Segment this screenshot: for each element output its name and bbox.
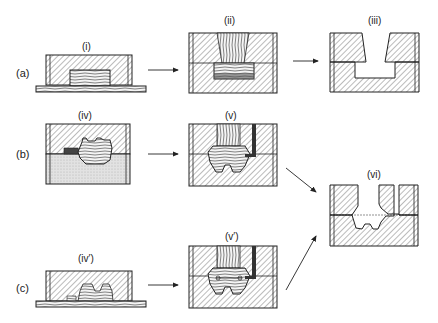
panel-label-v-prime: (v′) — [225, 231, 239, 242]
panel-iii: (iii) — [330, 15, 419, 92]
row-label-c: (c) — [16, 282, 29, 294]
row-label-a: (a) — [16, 67, 29, 79]
panel-ii: (ii) — [189, 15, 277, 93]
panel-label-iii: (iii) — [368, 15, 381, 26]
panel-v: (v) — [189, 110, 277, 186]
panel-v-prime: (v′) — [189, 231, 277, 308]
panel-iv-prime: (iv′) — [36, 253, 146, 307]
panel-label-iv: (iv) — [78, 110, 92, 121]
arrow-v-prime-to-vi — [286, 236, 316, 290]
process-diagram: (a) (b) (c) (i) (ii) (iii) (iv) — [0, 0, 438, 323]
panel-label-i: (i) — [82, 41, 91, 52]
panel-label-vi: (vi) — [367, 169, 381, 180]
panel-vi: (vi) — [330, 169, 418, 246]
arrow-v-to-vi — [286, 168, 316, 192]
panel-label-iv-prime: (iv′) — [78, 253, 94, 264]
row-label-b: (b) — [16, 148, 29, 160]
panel-i: (i) — [36, 41, 146, 92]
panel-label-v: (v) — [225, 110, 237, 121]
panel-iv: (iv) — [46, 110, 130, 184]
panel-label-ii: (ii) — [224, 15, 235, 26]
